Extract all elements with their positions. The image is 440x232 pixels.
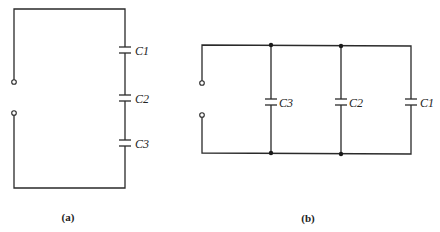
- capacitor-b-c2: [335, 99, 347, 105]
- terminal-a-bottom: [12, 111, 17, 116]
- label-b-c1: C1: [420, 96, 434, 110]
- label-b-c2: C2: [349, 96, 363, 110]
- junction-b-c3-top: [269, 43, 273, 47]
- label-a-c3: C3: [135, 137, 149, 151]
- panel-b-label: (b): [301, 212, 315, 225]
- capacitor-a-c2: [119, 95, 131, 101]
- capacitor-a-c1: [119, 47, 131, 53]
- panel-a-label: (a): [62, 211, 75, 224]
- terminal-b-bottom: [200, 113, 205, 118]
- junction-b-c2-top: [339, 44, 343, 48]
- wire-a-top-loop: [14, 9, 125, 80]
- capacitor-b-c3: [265, 99, 277, 105]
- label-a-c1: C1: [135, 44, 149, 58]
- capacitor-a-c3: [119, 140, 131, 146]
- wire-b-bottom: [202, 105, 411, 154]
- panel-b-parallel-circuit: C3 C2 C1 (b): [200, 43, 434, 225]
- wire-a-bottom-loop: [14, 115, 125, 188]
- panel-a-series-circuit: C1 C2 C3 (a): [12, 9, 149, 224]
- terminal-b-top: [200, 81, 205, 86]
- label-b-c3: C3: [279, 96, 293, 110]
- junction-b-c3-bottom: [269, 151, 273, 155]
- terminal-a-top: [12, 80, 17, 85]
- wire-b-top: [202, 45, 411, 99]
- circuit-figure: C1 C2 C3 (a) C3 C2: [0, 0, 440, 232]
- capacitor-b-c1: [405, 99, 417, 105]
- junction-b-c2-bottom: [339, 152, 343, 156]
- label-a-c2: C2: [135, 92, 149, 106]
